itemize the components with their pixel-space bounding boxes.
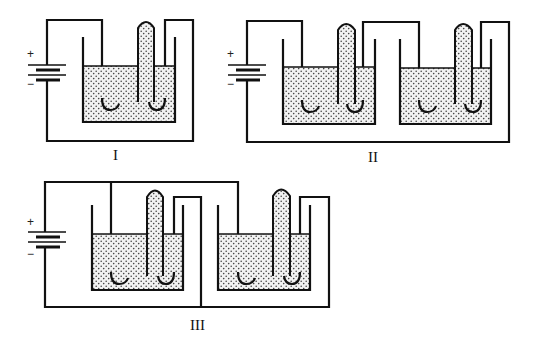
circuit-label: I [113, 147, 118, 163]
circuit-III: + − III [27, 182, 329, 333]
gas-collection-tube [455, 24, 472, 104]
electrolysis-diagram: + − I + − [0, 0, 533, 346]
negative-sign: − [27, 77, 34, 91]
circuit-label: III [190, 317, 205, 333]
circuit-label: II [368, 149, 378, 165]
gas-collection-tube [147, 191, 163, 277]
positive-sign: + [27, 47, 34, 61]
negative-sign: − [227, 77, 234, 91]
positive-sign: + [227, 47, 234, 61]
circuit-I: + − I [27, 20, 193, 163]
gas-collection-tube [138, 22, 154, 102]
gas-collection-tube [273, 190, 290, 277]
circuit-II: + − II [227, 21, 509, 165]
battery-icon: + − [27, 215, 66, 261]
gas-collection-tube [338, 24, 355, 104]
negative-sign: − [27, 247, 34, 261]
positive-sign: + [27, 215, 34, 229]
